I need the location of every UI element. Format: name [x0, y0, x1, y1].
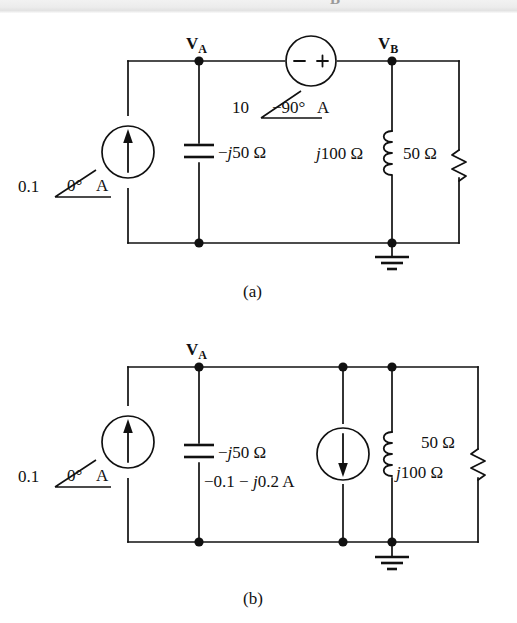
- fig-b-junction-node-a-bottom: [194, 537, 203, 546]
- fig-a-current-source-angle: 0°: [67, 176, 82, 195]
- fig-a-inductor-coil: [384, 131, 392, 175]
- fig-b-inductor-coil: [384, 432, 392, 476]
- fig-a-node-a-label: VA: [186, 34, 207, 56]
- fig-a-inductor-label: j100 Ω: [314, 144, 363, 163]
- fig-a-capacitor-label: −j50 Ω: [218, 143, 266, 162]
- circuit-diagrams: 0.1 0° A 10 −90° A −j50 Ω j100 Ω: [0, 0, 517, 623]
- fig-b-caption: (b): [243, 589, 263, 608]
- fig-b-current-source-right-label: −0.1 − j0.2 A: [204, 472, 295, 491]
- figure-b: 0.1 0° A −0.1 − j0.2 A −j50 Ω j100 Ω: [18, 340, 485, 608]
- fig-b-node-a-label: VA: [186, 340, 207, 362]
- fig-b-resistor-label: 50 Ω: [421, 433, 455, 452]
- fig-a-voltage-source-unit: A: [317, 98, 330, 117]
- fig-a-resistor-label: 50 Ω: [403, 144, 437, 163]
- fig-b-current-source-left-angle: 0°: [67, 466, 82, 485]
- fig-b-junction-mid-bottom: [338, 537, 347, 546]
- fig-b-junction-ind-top: [387, 362, 396, 371]
- fig-a-current-source-magnitude: 0.1: [18, 177, 39, 196]
- fig-a-node-b-label: VB: [378, 34, 398, 56]
- figure-a: 0.1 0° A 10 −90° A −j50 Ω j100 Ω: [18, 34, 466, 301]
- fig-b-junction-node-a-top: [194, 362, 203, 371]
- fig-b-current-source-left-unit: A: [96, 466, 109, 485]
- figure-page: B 0.1 0° A: [0, 0, 517, 623]
- fig-a-voltage-source-magnitude: 10: [232, 98, 249, 117]
- fig-a-caption: (a): [243, 282, 262, 301]
- fig-b-resistor-zigzag: [471, 449, 485, 480]
- fig-b-capacitor-label: −j50 Ω: [218, 443, 266, 462]
- fig-b-current-source-left-magnitude: 0.1: [18, 467, 39, 486]
- fig-a-junction-node-b-top: [387, 56, 396, 65]
- fig-b-junction-mid-top: [338, 362, 347, 371]
- fig-a-current-source-unit: A: [96, 176, 109, 195]
- fig-a-junction-node-a-bottom: [194, 238, 203, 247]
- fig-a-junction-node-a-top: [194, 56, 203, 65]
- fig-a-resistor-zigzag: [452, 150, 466, 181]
- fig-b-inductor-label: j100 Ω: [394, 463, 443, 482]
- fig-a-voltage-source-angle: −90°: [272, 98, 305, 117]
